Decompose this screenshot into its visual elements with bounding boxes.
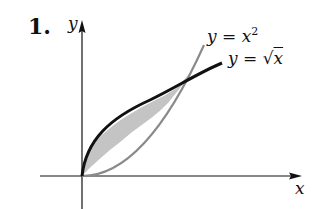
label-var: x: [274, 48, 284, 68]
label-sqrt-x: y = √x: [228, 48, 283, 68]
label-lhs: y: [228, 48, 238, 68]
sqrt-icon: √: [263, 48, 274, 68]
x-axis-label: x: [295, 178, 305, 198]
label-equals: =: [243, 48, 257, 68]
curve-sqrt-x: [82, 63, 222, 176]
label-exponent: 2: [251, 25, 258, 38]
label-equals: =: [222, 26, 236, 46]
label-lhs: y: [207, 26, 217, 46]
graph: [0, 0, 321, 209]
label-x-squared: y = x2: [207, 26, 258, 46]
y-axis-label: y: [68, 13, 78, 33]
label-var: x: [242, 26, 252, 46]
